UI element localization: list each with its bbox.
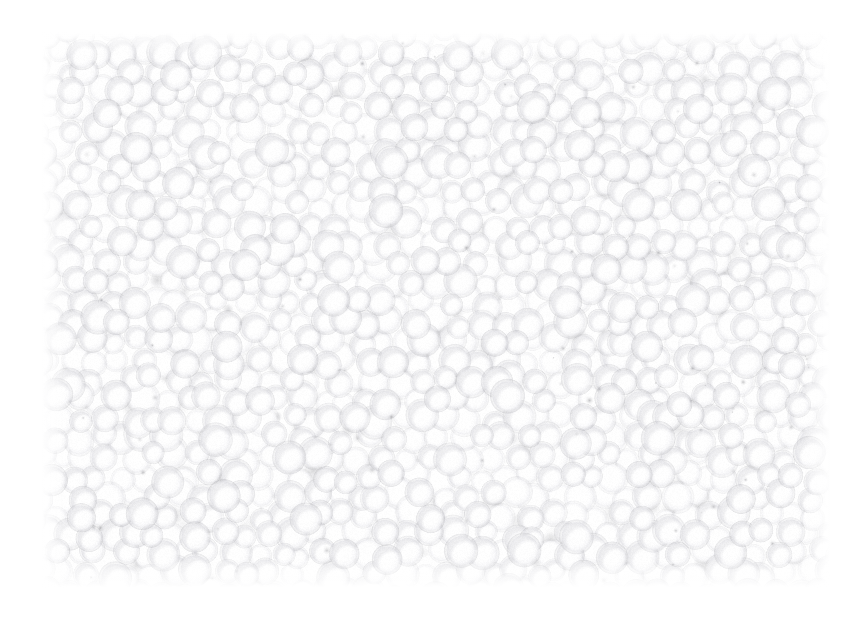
micrograph-image [42, 32, 830, 588]
particle-bed-canvas [42, 32, 830, 588]
page-root [0, 0, 866, 624]
